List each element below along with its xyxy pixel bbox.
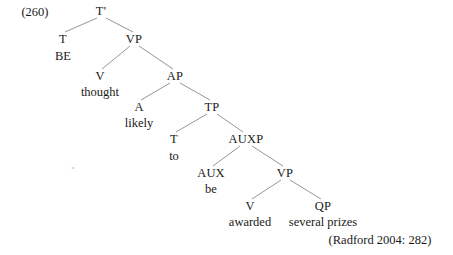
syntax-tree-figure: T'TVPVAPATPTAUXPAUXVPVQP BEthoughtlikely… xyxy=(0,0,453,255)
example-number: (260) xyxy=(21,6,48,19)
scan-speck-icon xyxy=(72,167,75,169)
scan-artifacts xyxy=(0,0,453,255)
source-citation: (Radford 2004: 282) xyxy=(329,234,432,247)
